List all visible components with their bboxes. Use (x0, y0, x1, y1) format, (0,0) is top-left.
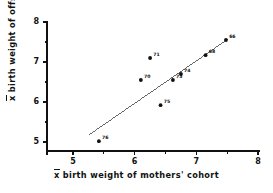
axis-lines (47, 21, 260, 151)
y-tick-label-8: 8 (27, 18, 39, 26)
y-tick-label-6: 6 (27, 98, 39, 106)
data-point-73 (171, 78, 175, 82)
point-label-66: 66 (229, 35, 235, 40)
data-point-68 (204, 53, 208, 57)
point-label-74: 74 (184, 69, 190, 74)
x-tick-label-8: 8 (252, 158, 264, 166)
scatter-plot-figure: x birth weight of offspring x birth weig… (0, 0, 273, 193)
point-label-73: 73 (176, 75, 182, 80)
x-tick-label-7: 7 (190, 158, 202, 166)
data-point-76 (97, 139, 101, 143)
data-point-66 (224, 38, 228, 42)
x-tick-label-6: 6 (129, 158, 141, 166)
point-label-75: 75 (164, 100, 170, 105)
point-label-70: 70 (144, 75, 150, 80)
x-tick-label-5: 5 (67, 158, 79, 166)
data-point-71 (148, 56, 152, 60)
point-label-68: 68 (209, 50, 215, 55)
y-tick-label-7: 7 (27, 58, 39, 66)
data-point-70 (139, 78, 143, 82)
point-label-71: 71 (153, 53, 159, 58)
point-label-76: 76 (102, 136, 108, 141)
axis-ticks (43, 22, 258, 155)
data-point-75 (159, 103, 163, 107)
y-tick-label-5: 5 (27, 138, 39, 146)
